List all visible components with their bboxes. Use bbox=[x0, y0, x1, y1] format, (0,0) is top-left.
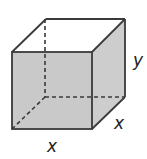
label-width-x: x bbox=[46, 136, 58, 156]
box-diagram: y x x bbox=[0, 0, 147, 159]
label-depth-x: x bbox=[113, 113, 125, 133]
label-height-y: y bbox=[132, 50, 144, 70]
